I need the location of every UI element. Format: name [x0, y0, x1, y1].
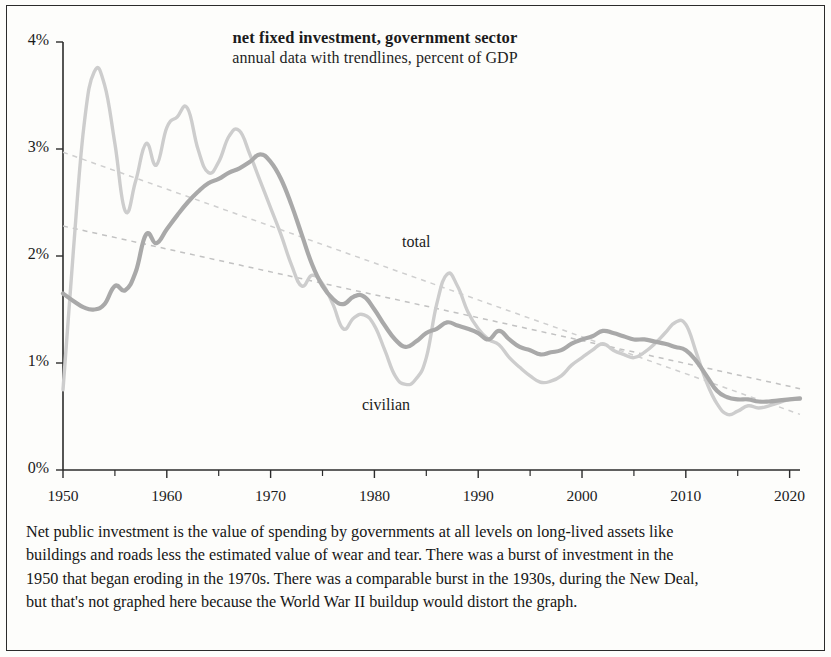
- trendline: [63, 152, 800, 414]
- y-axis-ticks: [56, 42, 63, 470]
- chart-svg: [0, 0, 831, 520]
- y-axis-tick-label: 0%: [3, 459, 49, 477]
- series-label-civilian: civilian: [362, 396, 410, 414]
- data-series: [63, 68, 800, 415]
- chart-title: net fixed investment, government sector: [140, 27, 610, 48]
- x-axis-tick-label: 2020: [760, 487, 820, 505]
- trendline: [63, 226, 800, 389]
- x-axis-tick-label: 1970: [241, 487, 301, 505]
- x-axis-tick-label: 1980: [344, 487, 404, 505]
- series-label-total: total: [402, 233, 430, 251]
- x-axis-tick-label: 1960: [137, 487, 197, 505]
- caption-line-1: Net public investment is the value of sp…: [26, 521, 808, 544]
- x-axis-tick-label: 1950: [33, 487, 93, 505]
- chart-plot-area: net fixed investment, government sector …: [0, 0, 831, 520]
- caption-line-2: buildings and roads less the estimated v…: [26, 544, 808, 567]
- y-axis-tick-label: 2%: [3, 245, 49, 263]
- y-axis-tick-label: 3%: [3, 138, 49, 156]
- figure-caption: Net public investment is the value of sp…: [26, 521, 808, 614]
- y-axis-tick-label: 4%: [3, 31, 49, 49]
- x-axis-tick-label: 2010: [656, 487, 716, 505]
- caption-line-3: 1950 that began eroding in the 1970s. Th…: [26, 568, 808, 591]
- axes: [56, 42, 800, 478]
- y-axis-tick-label: 1%: [3, 352, 49, 370]
- figure-container: net fixed investment, government sector …: [0, 0, 831, 657]
- trendlines: [63, 152, 800, 414]
- caption-line-4: but that's not graphed here because the …: [26, 591, 808, 614]
- series-line-total: [63, 68, 800, 415]
- x-axis-tick-label: 1990: [448, 487, 508, 505]
- x-axis-ticks: [63, 470, 790, 478]
- title-block: net fixed investment, government sector …: [140, 27, 610, 69]
- x-axis-tick-label: 2000: [552, 487, 612, 505]
- chart-subtitle: annual data with trendlines, percent of …: [140, 48, 610, 68]
